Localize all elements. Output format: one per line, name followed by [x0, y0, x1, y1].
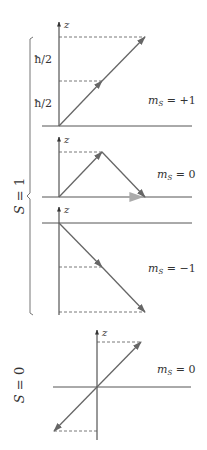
- panel-triplet-zero: z mS = 0: [42, 134, 195, 197]
- z-axis-label: z: [101, 327, 108, 338]
- ms-label-plus1: mS = +1: [148, 94, 196, 108]
- panel-singlet: z mS = 0: [53, 327, 195, 440]
- spin-vector-2: [102, 37, 145, 81]
- spin-vector-1: [59, 81, 102, 126]
- group-label-singlet: S = 0: [12, 367, 27, 403]
- group-label-triplet: S = 1: [12, 178, 27, 214]
- spin-vector-1: [59, 223, 102, 267]
- spin-vector-up: [97, 342, 141, 387]
- triplet-brace: [27, 37, 33, 315]
- ms-label-minus1: mS = −1: [148, 262, 196, 276]
- z-axis-label: z: [63, 134, 70, 145]
- spin-vector-2: [102, 267, 145, 312]
- spin-vector-diagram: S = 1 z ħ/2 ħ/2 mS = +1 z mS = 0 z: [0, 0, 207, 450]
- spin-vector-2: [102, 152, 145, 197]
- panel-triplet-plus: z ħ/2 ħ/2 mS = +1: [34, 19, 195, 126]
- tick-label-hbar-lower: ħ/2: [34, 97, 52, 110]
- z-axis-label: z: [63, 204, 70, 215]
- tick-label-hbar-upper: ħ/2: [34, 53, 52, 66]
- ms-label-singlet-zero: mS = 0: [157, 363, 195, 377]
- spin-vector-down: [54, 387, 97, 431]
- z-axis-label: z: [63, 19, 70, 30]
- ms-label-zero: mS = 0: [157, 168, 195, 182]
- panel-triplet-minus: z mS = −1: [42, 204, 196, 315]
- spin-vector-1: [59, 152, 102, 197]
